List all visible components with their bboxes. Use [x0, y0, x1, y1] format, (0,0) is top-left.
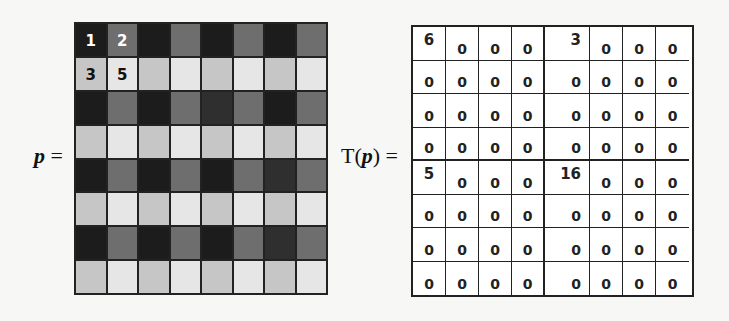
coefficient-cell: 16 — [545, 161, 590, 195]
pixel-cell — [297, 227, 327, 259]
coefficient-cell: 0 — [590, 61, 623, 95]
coefficient-cell: 0 — [623, 128, 656, 162]
coefficient-cell: 0 — [479, 27, 512, 61]
var-p: p — [34, 143, 45, 168]
coefficient-cell: 0 — [479, 128, 512, 162]
transform-tp-grid: 6000300000000000000000000000000050001600… — [411, 25, 694, 297]
pixel-cell — [234, 160, 264, 192]
pixel-cell — [171, 261, 201, 293]
pixel-cell — [265, 227, 295, 259]
pixel-cell — [171, 126, 201, 158]
coefficient-cell: 0 — [656, 61, 689, 95]
coefficient-cell: 0 — [479, 161, 512, 195]
coefficient-cell: 0 — [545, 61, 590, 95]
coefficient-cell: 0 — [446, 61, 479, 95]
coefficient-cell: 0 — [479, 61, 512, 95]
label-p-equals: p = — [34, 143, 63, 169]
pixel-cell — [108, 227, 138, 259]
pixel-cell — [234, 227, 264, 259]
pixel-cell — [265, 193, 295, 225]
coefficient-cell: 0 — [623, 27, 656, 61]
coefficient-cell: 0 — [623, 262, 656, 296]
pixel-cell — [76, 261, 106, 293]
coefficient-cell: 0 — [413, 128, 446, 162]
coefficient-cell: 3 — [545, 27, 590, 61]
pixel-cell — [139, 160, 169, 192]
coefficient-cell: 5 — [413, 161, 446, 195]
coefficient-cell: 0 — [545, 262, 590, 296]
coefficient-cell: 6 — [413, 27, 446, 61]
coefficient-cell: 0 — [590, 195, 623, 229]
label-tp-equals: T(p) = — [341, 143, 398, 169]
coefficient-cell: 0 — [545, 228, 590, 262]
pixel-cell — [171, 193, 201, 225]
coefficient-cell: 0 — [446, 161, 479, 195]
coefficient-cell: 0 — [446, 27, 479, 61]
coefficient-cell: 0 — [512, 161, 545, 195]
pixel-cell — [108, 126, 138, 158]
pixel-cell — [202, 193, 232, 225]
pixel-cell — [108, 193, 138, 225]
pixel-cell — [139, 58, 169, 90]
coefficient-cell: 0 — [623, 161, 656, 195]
coefficient-cell: 0 — [413, 195, 446, 229]
coefficient-cell: 0 — [446, 228, 479, 262]
image-p-grid: 1235 — [74, 22, 328, 295]
coefficient-cell: 0 — [656, 195, 689, 229]
pixel-cell: 2 — [108, 24, 138, 56]
pixel-cell — [297, 24, 327, 56]
pixel-cell — [76, 160, 106, 192]
pixel-cell — [234, 58, 264, 90]
pixel-cell — [234, 92, 264, 124]
pixel-cell — [139, 227, 169, 259]
coefficient-cell: 0 — [446, 94, 479, 128]
coefficient-cell: 0 — [479, 94, 512, 128]
coefficient-cell: 0 — [590, 128, 623, 162]
pixel-cell — [76, 227, 106, 259]
coefficient-cell: 0 — [545, 195, 590, 229]
coefficient-cell: 0 — [479, 228, 512, 262]
pixel-cell — [297, 261, 327, 293]
pixel-value-label: 1 — [86, 32, 96, 50]
coefficient-cell: 0 — [590, 228, 623, 262]
pixel-cell — [265, 261, 295, 293]
coefficient-cell: 0 — [590, 161, 623, 195]
coefficient-cell: 0 — [656, 228, 689, 262]
pixel-cell — [265, 92, 295, 124]
var-p: p — [362, 143, 373, 168]
pixel-cell — [171, 24, 201, 56]
coefficient-cell: 0 — [656, 161, 689, 195]
pixel-cell — [202, 24, 232, 56]
pixel-cell — [76, 92, 106, 124]
pixel-cell — [139, 126, 169, 158]
coefficient-cell: 0 — [479, 262, 512, 296]
pixel-cell — [108, 92, 138, 124]
coefficient-cell: 0 — [413, 228, 446, 262]
coefficient-cell: 0 — [512, 228, 545, 262]
pixel-cell — [202, 160, 232, 192]
coefficient-cell: 0 — [512, 94, 545, 128]
coefficient-cell: 0 — [446, 262, 479, 296]
coefficient-cell: 0 — [446, 128, 479, 162]
pixel-cell — [297, 92, 327, 124]
pixel-cell — [265, 58, 295, 90]
pixel-cell — [139, 92, 169, 124]
pixel-cell — [234, 261, 264, 293]
coefficient-cell: 0 — [590, 94, 623, 128]
pixel-cell — [202, 227, 232, 259]
pixel-cell — [234, 126, 264, 158]
coefficient-cell: 0 — [512, 195, 545, 229]
coefficient-cell: 0 — [413, 262, 446, 296]
pixel-cell — [202, 58, 232, 90]
pixel-value-label: 2 — [117, 32, 127, 50]
equals-sign: = — [45, 143, 63, 168]
coefficient-cell: 0 — [590, 27, 623, 61]
coefficient-cell: 0 — [413, 61, 446, 95]
coefficient-cell: 0 — [512, 128, 545, 162]
pixel-cell — [171, 227, 201, 259]
coefficient-cell: 0 — [512, 61, 545, 95]
coefficient-cell: 0 — [545, 128, 590, 162]
pixel-cell — [234, 24, 264, 56]
pixel-cell — [265, 126, 295, 158]
coefficient-cell: 0 — [512, 27, 545, 61]
